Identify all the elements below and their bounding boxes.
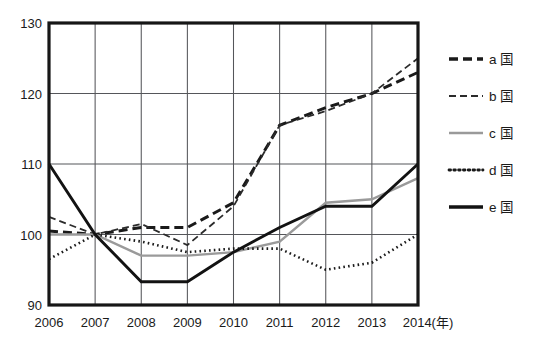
chart-container: 90100110120130 2006200720082009201020112… <box>0 0 549 349</box>
x-tick-label: 2012 <box>311 315 340 330</box>
y-tick-label: 90 <box>28 298 42 313</box>
x-tick-label: 2007 <box>81 315 110 330</box>
legend-label-e: e 国 <box>489 200 513 215</box>
x-tick-label: 2014(年) <box>403 315 454 330</box>
x-tick-label: 2006 <box>35 315 64 330</box>
y-axis-tick-labels: 90100110120130 <box>20 16 42 313</box>
x-axis-tick-labels: 200620072008200920102011201220132014(年) <box>35 315 454 330</box>
legend-label-c: c 国 <box>489 126 513 141</box>
y-tick-label: 120 <box>20 87 42 102</box>
y-tick-label: 100 <box>20 228 42 243</box>
y-tick-label: 130 <box>20 16 42 31</box>
x-tick-label: 2011 <box>266 315 294 330</box>
legend-label-a: a 国 <box>489 52 513 67</box>
x-tick-label: 2009 <box>173 315 202 330</box>
line-chart: 90100110120130 2006200720082009201020112… <box>0 0 549 349</box>
chart-legend: a 国b 国c 国d 国e 国 <box>449 52 513 215</box>
legend-label-b: b 国 <box>489 89 513 104</box>
legend-label-d: d 国 <box>489 163 513 178</box>
y-tick-label: 110 <box>21 157 42 172</box>
x-tick-label: 2013 <box>357 315 386 330</box>
x-tick-label: 2010 <box>219 315 248 330</box>
x-tick-label: 2008 <box>127 315 156 330</box>
chart-gridlines <box>49 23 418 305</box>
